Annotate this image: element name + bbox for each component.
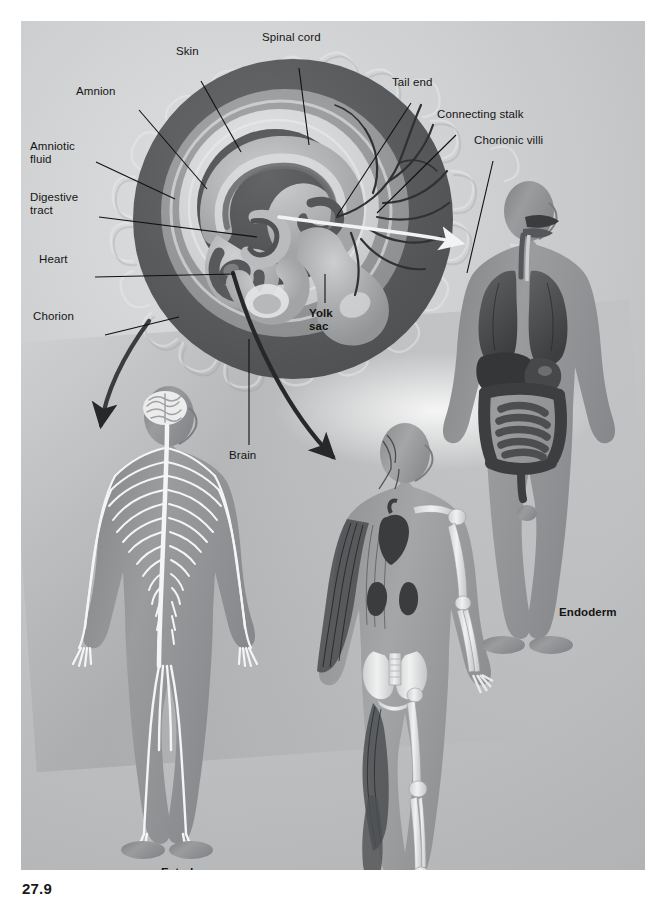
figure-root: Spinal cord Skin Amnion Amniotic fluid D…: [0, 0, 667, 901]
ectoderm-brain: [143, 391, 187, 425]
label-ectoderm: Ectoderm: [161, 866, 215, 870]
label-amnion: Amnion: [76, 85, 116, 98]
figure-number: 27.9: [22, 880, 52, 897]
label-skin: Skin: [176, 45, 199, 58]
illustration-panel: Spinal cord Skin Amnion Amniotic fluid D…: [21, 21, 645, 870]
label-yolk-sac: Yolk sac: [309, 307, 333, 332]
label-endoderm: Endoderm: [559, 606, 617, 619]
label-amniotic-fluid: Amniotic fluid: [30, 140, 75, 165]
illustration-artwork: [21, 21, 645, 870]
label-heart: Heart: [39, 253, 68, 266]
label-connecting-stalk: Connecting stalk: [437, 108, 524, 121]
label-spinal-cord: Spinal cord: [262, 31, 321, 44]
endoderm-trachea: [521, 235, 523, 277]
mesoderm-figure: [317, 423, 493, 870]
arrow-to-ectoderm: [101, 321, 149, 425]
label-chorion: Chorion: [33, 310, 74, 323]
label-tail-end: Tail end: [392, 76, 432, 89]
label-brain: Brain: [229, 449, 256, 462]
label-digestive-tract: Digestive tract: [30, 191, 78, 216]
label-chorionic-villi: Chorionic villi: [474, 134, 543, 147]
